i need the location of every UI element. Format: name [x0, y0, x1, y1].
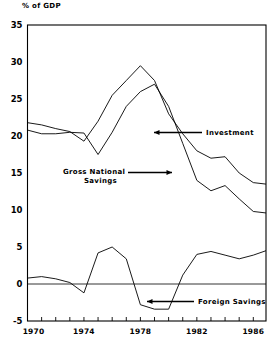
annotation-investment-label: Investment — [206, 129, 254, 137]
annotation-foreign-savings-label: Foreign Savings — [198, 298, 266, 306]
annotation-gross-national-savings-label-line1: Gross National — [63, 168, 125, 176]
x-axis-tick-label: 1978 — [130, 327, 152, 336]
x-axis-tick-label: 1982 — [186, 327, 208, 336]
y-axis-tick-label: 0 — [17, 279, 23, 289]
y-axis-tick-label: 35 — [11, 20, 23, 30]
y-axis-tick-label: 15 — [11, 168, 23, 178]
y-axis-tick-label: 25 — [11, 94, 23, 104]
x-axis-tick-label: 1986 — [242, 327, 264, 336]
annotation-gross-national-savings-label-line2: Savings — [84, 177, 117, 185]
series-line-gross-national-savings — [28, 84, 267, 213]
annotation-foreign-savings-arrow-head — [147, 299, 153, 304]
y-axis-tick-label: 10 — [11, 205, 23, 215]
y-axis-tick-label: 20 — [11, 131, 23, 141]
annotation-gross-national-savings-arrow-head — [167, 170, 173, 175]
y-axis-tick-label: 30 — [11, 57, 23, 67]
annotation-investment-arrow-head — [154, 130, 160, 135]
x-axis-tick-label: 1974 — [73, 327, 95, 336]
series-line-investment — [28, 66, 267, 184]
y-axis-tick-label: -5 — [13, 316, 23, 326]
x-axis-tick-label: 1970 — [23, 327, 45, 336]
y-axis-tick-label: 5 — [17, 242, 23, 252]
chart-figure: % of GDP 35302520151050-5197019741978198… — [0, 0, 274, 350]
